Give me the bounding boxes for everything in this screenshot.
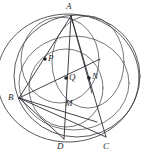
point-marker-n bbox=[87, 76, 90, 79]
point-label-d: D bbox=[57, 142, 64, 151]
segment-b-c bbox=[19, 98, 106, 137]
point-label-a: A bbox=[66, 2, 72, 11]
point-label-m: M bbox=[65, 99, 73, 108]
point-label-p: P bbox=[48, 54, 54, 63]
point-label-b: B bbox=[8, 93, 14, 102]
segment-b-d bbox=[19, 98, 64, 139]
circle-through-a-p-q bbox=[21, 17, 99, 103]
point-marker-p bbox=[43, 57, 46, 60]
point-label-n: N bbox=[92, 72, 98, 81]
point-label-c: C bbox=[103, 142, 109, 151]
geometry-canvas bbox=[0, 0, 162, 160]
point-label-q: Q bbox=[69, 73, 76, 82]
geometry-figure: A B C D P Q N M bbox=[0, 0, 162, 160]
point-marker-q bbox=[64, 76, 67, 79]
segment-b-m bbox=[19, 98, 97, 122]
